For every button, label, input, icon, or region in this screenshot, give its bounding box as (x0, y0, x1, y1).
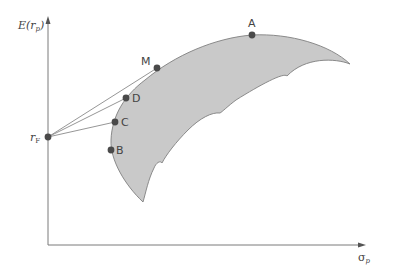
efficient-frontier-diagram: E(rp) σp rF A M D C B (0, 0, 393, 275)
risk-free-label: rF (30, 132, 40, 145)
point-a (249, 32, 256, 39)
point-d (123, 95, 130, 102)
point-m-label: M (141, 56, 151, 67)
x-axis-label: σp (358, 252, 370, 265)
point-a-label: A (248, 18, 256, 29)
point-c-label: C (121, 117, 129, 128)
x-axis-label-sub: p (366, 257, 370, 265)
risk-free-label-sub: F (35, 137, 40, 145)
point-m (154, 65, 161, 72)
cal-line-c (48, 122, 115, 137)
y-axis-label: E(rp) (18, 20, 44, 33)
x-axis-label-main: σ (358, 251, 366, 264)
point-c (112, 119, 119, 126)
y-axis-label-close: ) (40, 19, 44, 32)
point-rf (45, 134, 52, 141)
point-d-label: D (132, 93, 140, 104)
y-axis-label-main: E(r (18, 19, 36, 32)
point-b (108, 147, 115, 154)
y-axis-arrow-icon (46, 16, 51, 24)
x-axis-arrow-icon (358, 243, 366, 248)
point-b-label: B (116, 145, 124, 156)
